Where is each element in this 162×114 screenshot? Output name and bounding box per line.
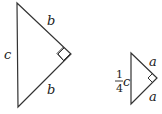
triangles-figure: c b b 1 4 c a a (0, 0, 162, 114)
small-fraction-numerator: 1 (116, 68, 123, 81)
large-triangle: c b b (4, 3, 71, 107)
small-leg-top-label: a (149, 54, 157, 69)
small-fraction-denominator: 4 (116, 82, 123, 95)
diagram-canvas: c b b 1 4 c a a (0, 0, 162, 114)
large-hypotenuse-label: c (4, 47, 12, 62)
right-angle-marker-small (148, 74, 157, 83)
large-leg-bottom-label: b (47, 82, 55, 97)
large-leg-top-label: b (47, 13, 55, 28)
small-hypotenuse-var: c (123, 74, 131, 89)
small-triangle: 1 4 c a a (115, 53, 157, 104)
small-leg-bottom-label: a (149, 89, 157, 104)
